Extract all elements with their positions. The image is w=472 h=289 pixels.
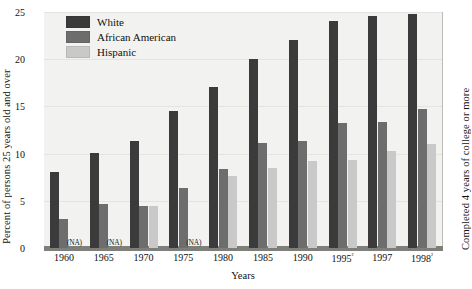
bar — [408, 14, 417, 248]
bar-group — [289, 12, 317, 248]
x-axis-tick-label: 1995² — [332, 252, 354, 264]
y-axis-tick-label: 20 — [0, 54, 25, 65]
y-axis-tick-label: 15 — [0, 101, 25, 112]
bar — [308, 161, 317, 248]
missing-value-label: (NA) — [67, 238, 82, 247]
bar — [348, 160, 357, 248]
y-axis-tick-label: 10 — [0, 148, 25, 159]
legend-swatch-icon — [66, 31, 90, 43]
y-axis-tick-label: 5 — [0, 195, 25, 206]
bar — [338, 123, 347, 248]
x-axis-title: Years — [44, 270, 442, 281]
bar — [378, 122, 387, 248]
bar — [139, 206, 148, 248]
bar — [50, 172, 59, 248]
bar — [368, 16, 377, 248]
legend-item-label: White — [97, 16, 124, 28]
bar — [228, 176, 237, 248]
bar — [258, 143, 267, 248]
bar-group — [209, 12, 237, 248]
y-axis-tick-label: 0 — [0, 243, 25, 254]
bar — [169, 111, 178, 248]
legend: WhiteAfrican AmericanHispanic — [66, 16, 176, 58]
legend-item-label: African American — [97, 31, 176, 43]
x-axis-tick-label: 1975 — [173, 252, 193, 263]
bar — [298, 141, 307, 248]
bar — [427, 144, 436, 248]
bar — [149, 206, 158, 248]
legend-swatch-icon — [66, 46, 90, 58]
x-axis-tick-label: 1965 — [94, 252, 114, 263]
x-axis-tick-label: 1990 — [293, 252, 313, 263]
bar — [329, 21, 338, 248]
bar — [418, 109, 427, 248]
bar — [289, 40, 298, 248]
x-axis-tick-label: 1960 — [54, 252, 74, 263]
bar — [249, 59, 258, 248]
bar — [387, 151, 396, 248]
y-axis-tick-label: 25 — [0, 7, 25, 18]
y-axis-title-left: Percent of persons 25 years old and over — [1, 18, 12, 244]
bar — [90, 153, 99, 248]
y-axis-title-right: Completed 4 years of college or more — [460, 20, 471, 250]
legend-item: Hispanic — [66, 46, 176, 58]
x-axis-tick-label: 1985 — [253, 252, 273, 263]
bar-chart-figure: Percent of persons 25 years old and over… — [0, 0, 472, 289]
missing-value-label: (NA) — [107, 238, 122, 247]
x-axis-tick-label: 1980 — [213, 252, 233, 263]
x-axis-tick-label: 1970 — [134, 252, 154, 263]
bar — [130, 141, 139, 248]
legend-item: African American — [66, 31, 176, 43]
legend-swatch-icon — [66, 16, 90, 28]
x-axis-tick-label: 1997 — [372, 252, 392, 263]
bar-group — [368, 12, 396, 248]
bar — [219, 169, 228, 248]
x-axis-ticks: 19601965197019751980198519901995²1997199… — [44, 252, 442, 268]
legend-item-label: Hispanic — [97, 46, 136, 58]
bar-group — [329, 12, 357, 248]
legend-item: White — [66, 16, 176, 28]
bar — [209, 87, 218, 248]
x-axis-tick-label: 1998² — [411, 252, 433, 264]
bar-group — [249, 12, 277, 248]
bar — [268, 168, 277, 248]
bar-group — [408, 12, 436, 248]
missing-value-label: (NA) — [186, 238, 201, 247]
